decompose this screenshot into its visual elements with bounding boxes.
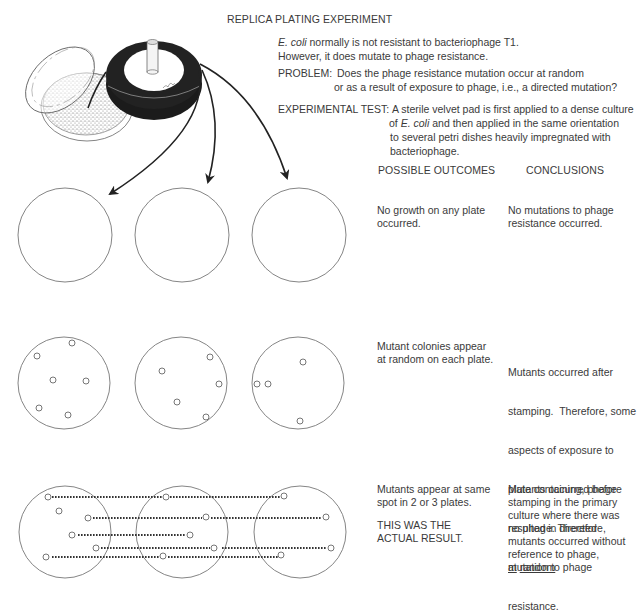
text-line: culture where there was [508,509,625,522]
actual-result-note: THIS WAS THE ACTUAL RESULT. [377,519,463,545]
text-line: mutants occurred without [508,535,625,548]
experimental-test-line-4: bacteriophage. [390,145,459,158]
text-line: No growth on any plate [377,204,485,217]
text-line: occurred. [377,217,485,230]
text: and then applied in the same orientation [429,117,619,129]
text-line: reference to phage, [508,548,625,561]
text-line: stamping. Therefore, some [508,405,636,418]
experimental-test-label: EXPERIMENTAL TEST: [278,103,389,116]
problem-line-1: Does the phage resistance mutation occur… [337,67,584,80]
organism-name: E. coli [278,36,307,48]
plates-row-same-spot [19,486,346,578]
text-line: at random on each plate. [377,353,493,366]
colonies [43,493,334,560]
text-line: no phage. Therefore, [508,522,625,535]
underlined-word: random [520,561,556,573]
text-line: Mutant colonies appear [377,340,493,353]
text-line: stamping in the primary [508,496,625,509]
text-line: Mutants occurred before [508,483,625,496]
intro-text: normally is not resistant to bacteriopha… [307,36,519,48]
conclusions-header: CONCLUSIONS [526,164,604,176]
text-line: resistance occurred. [508,217,614,230]
conclusion-no-mutations: No mutations to phage resistance occurre… [508,204,614,230]
text: of [389,117,401,129]
outcome-random-colonies: Mutant colonies appear at random on each… [377,340,493,366]
plates-row-no-growth [18,188,346,282]
colonies [34,340,306,424]
text-line-underlined: at random [508,561,625,574]
text-line: ACTUAL RESULT. [377,532,463,545]
intro-line-1: E. coli normally is not resistant to bac… [278,36,519,49]
text-line: Mutants appear at same [377,483,490,496]
outcome-no-growth: No growth on any plate occurred. [377,204,485,230]
organism-name: E. coli [401,117,430,129]
text-line: No mutations to phage [508,204,614,217]
problem-label: PROBLEM: [278,67,332,80]
experimental-test-line-1: A sterile velvet pad is first applied to… [392,103,634,116]
arrow-icon [202,70,215,182]
outcome-same-spot: Mutants appear at same spot in 2 or 3 pl… [377,483,490,509]
experimental-test-line-3: to several petri dishes heavily impregna… [390,131,611,144]
text-line: Mutants occurred after [508,366,636,379]
conclusion-random-mutation: Mutants occurred before stamping in the … [508,483,625,574]
text-line: aspects of exposure to [508,444,636,457]
text-line: spot in 2 or 3 plates. [377,496,490,509]
underlined-word: at [508,561,517,573]
velvet-pad-stamp-icon [106,40,202,121]
experimental-test-line-2: of E. coli and then applied in the same … [389,117,619,130]
problem-line-2: or as a result of exposure to phage, i.e… [334,81,617,94]
text-line: resistance. [508,600,636,613]
outcomes-header: POSSIBLE OUTCOMES [378,164,495,176]
text-line: THIS WAS THE [377,519,463,532]
page-title: REPLICA PLATING EXPERIMENT [227,13,392,25]
intro-line-2: However, it does mutate to phage resista… [278,50,488,63]
